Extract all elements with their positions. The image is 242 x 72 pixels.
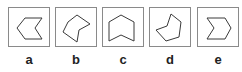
option-e-panel — [197, 7, 239, 47]
shape-b-icon — [56, 8, 96, 46]
shape-a-icon — [9, 8, 49, 46]
shape-c-polygon — [109, 15, 134, 41]
option-c-panel — [102, 7, 144, 47]
shape-b-polygon — [63, 15, 90, 42]
shape-c-icon — [103, 8, 143, 46]
option-b-panel — [55, 7, 97, 47]
option-c-label: c — [102, 53, 144, 67]
shape-d-icon — [150, 8, 190, 46]
shape-e-polygon — [207, 18, 231, 39]
option-b-label: b — [55, 53, 97, 67]
option-d-label: d — [149, 53, 191, 67]
option-d-panel — [149, 7, 191, 47]
option-a-label: a — [8, 53, 50, 67]
option-e-label: e — [197, 53, 239, 67]
option-a-panel — [8, 7, 50, 47]
shape-d-polygon — [156, 14, 181, 41]
shape-e-icon — [198, 8, 238, 46]
shape-a-polygon — [17, 18, 42, 39]
